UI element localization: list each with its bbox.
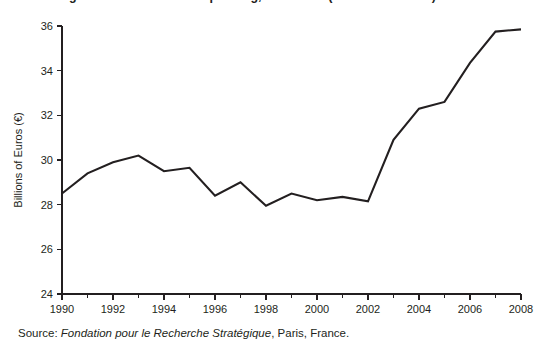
- y-axis-title: Billions of Euros (€): [12, 112, 24, 207]
- y-tick-label: 24: [41, 288, 53, 300]
- y-tick-label: 34: [41, 65, 53, 77]
- line-chart-svg: 2426283032343619901992199419961998200020…: [0, 8, 544, 320]
- data-series-line: [62, 29, 521, 205]
- x-tick-label: 2004: [407, 303, 431, 315]
- x-tick-label: 1996: [203, 303, 227, 315]
- x-tick-label: 2008: [509, 303, 533, 315]
- source-note: Source: Fondation pour le Recherche Stra…: [18, 327, 349, 339]
- chart-title-clipped: Figure: French Defence Spending, 1990-20…: [0, 0, 544, 7]
- plot-area: 2426283032343619901992199419961998200020…: [0, 8, 544, 320]
- x-tick-label: 2002: [356, 303, 380, 315]
- x-tick-label: 1998: [254, 303, 278, 315]
- y-tick-label: 36: [41, 20, 53, 32]
- source-label: Source:: [18, 327, 61, 339]
- x-tick-label: 2000: [305, 303, 329, 315]
- y-tick-label: 28: [41, 199, 53, 211]
- source-place: , Paris, France.: [271, 327, 349, 339]
- x-tick-label: 1990: [50, 303, 74, 315]
- y-tick-label: 32: [41, 109, 53, 121]
- x-tick-label: 2006: [458, 303, 482, 315]
- chart-title-text: Figure: French Defence Spending, 1990-20…: [58, 0, 436, 3]
- y-tick-label: 30: [41, 154, 53, 166]
- x-tick-label: 1992: [101, 303, 125, 315]
- x-tick-label: 1994: [152, 303, 176, 315]
- y-tick-label: 26: [41, 243, 53, 255]
- figure-container: Figure: French Defence Spending, 1990-20…: [0, 0, 544, 348]
- source-organization: Fondation pour le Recherche Stratégique: [61, 327, 271, 339]
